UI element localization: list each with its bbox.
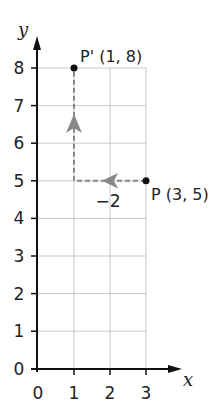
x-tick-label-3: 3 (141, 383, 152, 403)
y-tick-labels: 8 7 6 5 4 3 2 1 0 (14, 58, 25, 379)
y-tick-label-6: 6 (14, 133, 25, 153)
point-p-prime (71, 65, 78, 72)
x-tick-label-2: 2 (105, 383, 116, 403)
x-tick-label-0: 0 (33, 383, 44, 403)
y-tick-label-5: 5 (14, 171, 25, 191)
x-axis-label: x (183, 369, 193, 390)
y-tick-label-4: 4 (14, 208, 25, 228)
y-axis-label: y (17, 19, 29, 40)
point-p (143, 177, 150, 184)
x-axis-arrowhead-icon (168, 365, 182, 373)
y-tick-label-2: 2 (14, 284, 25, 304)
x-tick-label-1: 1 (69, 383, 80, 403)
horizontal-shift-label: −2 (95, 191, 120, 211)
point-p-prime-label: P' (1, 8) (80, 47, 142, 66)
coordinate-plane: 8 7 6 5 4 3 2 1 0 0 1 2 3 y x −2 P (3, 5… (0, 0, 218, 408)
y-tick-label-1: 1 (14, 321, 25, 341)
y-tick-label-8: 8 (14, 58, 25, 78)
y-tick-label-0: 0 (14, 359, 25, 379)
point-p-label: P (3, 5) (151, 185, 209, 204)
y-tick-label-3: 3 (14, 246, 25, 266)
x-tick-labels: 0 1 2 3 (33, 383, 152, 403)
y-axis-arrowhead-icon (33, 36, 41, 50)
grid (37, 68, 146, 369)
y-tick-label-7: 7 (14, 96, 25, 116)
